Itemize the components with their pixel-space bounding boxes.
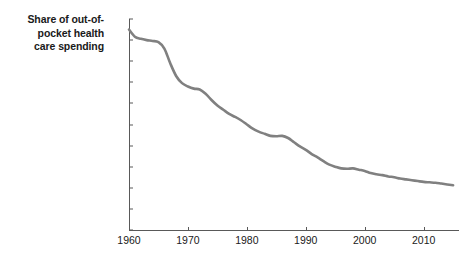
series-layer — [0, 0, 474, 266]
series-line-out-of-pocket-share — [129, 30, 453, 186]
chart-figure: Share of out-of- pocket health care spen… — [0, 0, 474, 266]
